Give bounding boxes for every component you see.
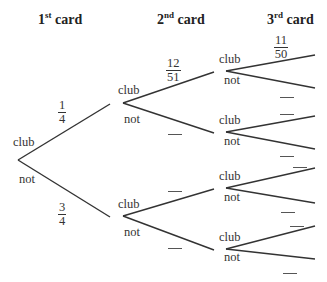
blank-2-not-club xyxy=(168,191,182,192)
l3-4-club-label: club xyxy=(219,230,241,245)
l3-4-not-label: not xyxy=(224,250,240,265)
l3-2-club-label: club xyxy=(219,113,241,128)
l3-3-club-label: club xyxy=(219,169,241,184)
fraction-first-not: 3 4 xyxy=(58,201,66,228)
fraction-numerator: 1 xyxy=(58,99,66,113)
fraction-numerator: 11 xyxy=(274,34,288,48)
fraction-second-club: 12 51 xyxy=(166,57,181,84)
fraction-numerator: 3 xyxy=(58,201,66,215)
blank-3-nn-not xyxy=(283,273,297,274)
blank-3-cc-not xyxy=(280,97,294,98)
root-club-label: club xyxy=(13,135,35,150)
l2-upper-club-label: club xyxy=(118,83,140,98)
blank-3-cn-not xyxy=(280,156,294,157)
blank-3-cn-club xyxy=(280,114,294,115)
blank-3-nc-not xyxy=(281,212,295,213)
blank-3-nn-club xyxy=(290,226,304,227)
fraction-denominator: 4 xyxy=(58,113,66,126)
blank-3-nc-club xyxy=(293,167,307,168)
l3-1-not-label: not xyxy=(224,73,240,88)
fraction-numerator: 12 xyxy=(166,57,181,71)
fraction-first-club: 1 4 xyxy=(58,99,66,126)
l2-upper-not-label: not xyxy=(124,112,140,127)
fraction-third-club: 11 50 xyxy=(274,34,288,61)
blank-2-not-not xyxy=(168,248,182,249)
l3-1-club-label: club xyxy=(219,52,241,67)
fraction-denominator: 4 xyxy=(58,215,66,228)
fraction-denominator: 51 xyxy=(166,71,181,84)
l3-2-not-label: not xyxy=(224,134,240,149)
l2-lower-club-label: club xyxy=(118,197,140,212)
root-not-label: not xyxy=(19,172,35,187)
l2-lower-not-label: not xyxy=(124,225,140,240)
fraction-denominator: 50 xyxy=(274,48,288,61)
l3-3-not-label: not xyxy=(224,190,240,205)
blank-2-club-not xyxy=(168,134,182,135)
